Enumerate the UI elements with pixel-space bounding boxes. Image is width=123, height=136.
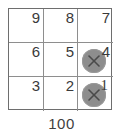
grid-cell-r1c1[interactable]: 9 [9, 9, 44, 43]
grid-cell-r3c3[interactable]: 1 [78, 77, 113, 111]
cell-number-r2c2: 5 [66, 44, 74, 60]
cell-number-r1c1: 9 [32, 10, 40, 26]
cell-number-r2c3: 4 [102, 44, 110, 60]
grid-cell-r2c2[interactable]: 5 [44, 43, 78, 77]
cell-number-r3c1: 3 [32, 78, 40, 94]
grid-total-caption: 100 [0, 115, 123, 132]
cell-number-r3c2: 2 [66, 78, 74, 94]
worksheet-canvas: 9 8 7 6 5 4 3 2 [0, 0, 123, 136]
grid-cell-r3c1[interactable]: 3 [9, 77, 44, 111]
grid-cell-r1c2[interactable]: 8 [44, 9, 78, 43]
cell-number-r1c2: 8 [66, 10, 74, 26]
cell-number-r2c1: 6 [32, 44, 40, 60]
grid-cell-r1c3[interactable]: 7 [78, 9, 113, 43]
grid-cell-r3c2[interactable]: 2 [44, 77, 78, 111]
grid-cell-r2c1[interactable]: 6 [9, 43, 44, 77]
cell-number-r1c3: 7 [102, 10, 110, 26]
grid-cell-r2c3[interactable]: 4 [78, 43, 113, 77]
number-grid: 9 8 7 6 5 4 3 2 [8, 8, 112, 110]
cell-number-r3c3: 1 [101, 77, 109, 93]
